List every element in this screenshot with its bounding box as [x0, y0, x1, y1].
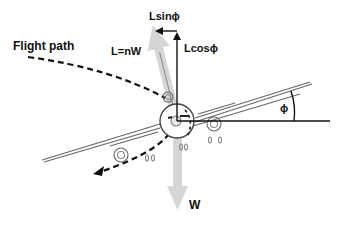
lift-horizontal-label: Lsinϕ [149, 11, 180, 22]
bank-angle-label: ϕ [280, 103, 288, 114]
lift-vertical-label: Lcosϕ [184, 43, 218, 54]
lift-label: L=nW [111, 46, 141, 57]
diagram-graphics [0, 0, 342, 228]
flight-path-arrowhead-icon [93, 166, 104, 176]
flight-path-curve [28, 57, 165, 98]
flight-path-continuation [100, 125, 174, 172]
flight-path-label: Flight path [13, 40, 74, 52]
weight-label: W [189, 199, 200, 211]
banked-turn-diagram: Flight path L=nW Lsinϕ Lcosϕ W ϕ [0, 0, 342, 228]
